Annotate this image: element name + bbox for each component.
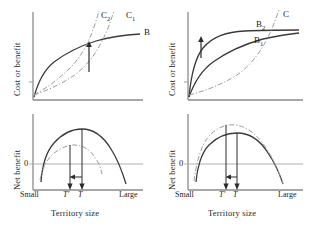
panel-bottom-right: Net benefit 0 bbox=[155, 112, 309, 227]
curve-benefit-B1 bbox=[189, 33, 299, 97]
x-tick-t-prime-right: T' bbox=[219, 190, 225, 199]
curve-label-C: C bbox=[283, 9, 289, 19]
x-axis-label-territory-size-left: Territory size bbox=[51, 208, 99, 218]
x-tick-large-right: Large bbox=[278, 190, 297, 199]
x-tick-t-right: T bbox=[233, 190, 237, 199]
x-tick-small-left: Small bbox=[20, 190, 39, 199]
panel-top-left: Cost or benefit C2 C1 bbox=[0, 0, 155, 112]
x-tick-t-left: T bbox=[78, 190, 82, 199]
curve-net-benefit-raised-benefit bbox=[194, 125, 283, 184]
panel-top-right: Cost or benefit B2 B1 C bbox=[155, 0, 309, 112]
y-axis-label-cost-or-benefit-left: Cost or benefit bbox=[12, 42, 22, 96]
x-tick-large-left: Large bbox=[119, 190, 138, 199]
curve-net-benefit-original bbox=[196, 133, 283, 184]
curve-label-B: B bbox=[144, 27, 150, 37]
y-axis-label-cost-or-benefit-right: Cost or benefit bbox=[167, 42, 177, 96]
y-axis-label-net-benefit-right: Net benefit bbox=[167, 150, 177, 190]
curve-benefit-B2 bbox=[189, 30, 299, 97]
curve-label-C1: C1 bbox=[126, 10, 135, 22]
y-axis-label-net-benefit-left: Net benefit bbox=[12, 150, 22, 190]
y-axis-zero-label-right: 0 bbox=[179, 158, 183, 168]
curve-label-C2: C2 bbox=[101, 10, 110, 22]
y-axis-zero-label-left: 0 bbox=[24, 158, 28, 168]
vline-T-prime bbox=[67, 145, 72, 190]
curve-label-B1: B1 bbox=[254, 35, 263, 47]
arrow-shift-left bbox=[226, 175, 238, 180]
figure-root: Cost or benefit C2 C1 bbox=[0, 0, 309, 227]
x-axis-label-territory-size-right: Territory size bbox=[208, 208, 256, 218]
curve-label-B2: B2 bbox=[256, 19, 265, 31]
arrow-shift-left bbox=[70, 175, 83, 180]
x-tick-small-right: Small bbox=[175, 190, 194, 199]
panel-bottom-left: Net benefit 0 bbox=[0, 112, 155, 227]
x-tick-t-prime-left: T' bbox=[63, 190, 69, 199]
curve-net-benefit-original bbox=[41, 129, 126, 184]
arrow-cost-increase bbox=[86, 41, 92, 72]
vline-T bbox=[79, 129, 84, 190]
vline-T bbox=[234, 133, 239, 190]
curve-cost-C bbox=[189, 10, 279, 95]
curve-cost-C1 bbox=[34, 11, 114, 95]
